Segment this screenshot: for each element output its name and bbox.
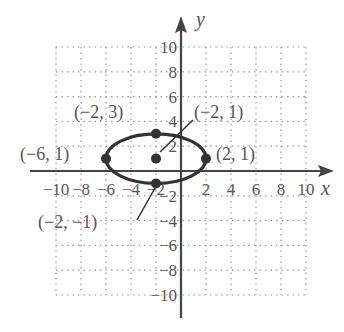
x-tick-label: 6 (252, 180, 261, 199)
y-tick-label: −4 (159, 212, 178, 231)
x-axis-label: x (320, 177, 330, 199)
y-tick-label: −10 (150, 286, 177, 305)
data-point (151, 154, 161, 164)
data-point (101, 154, 111, 164)
x-tick-label: 4 (227, 180, 236, 199)
y-tick-label: 6 (169, 88, 178, 107)
point-label-right: (2, 1) (216, 144, 255, 165)
y-tick-label: −8 (159, 261, 177, 280)
point-label-center: (−2, 1) (194, 102, 243, 123)
y-tick-label: −2 (159, 187, 177, 206)
point-label-bottom: (−2, −1) (38, 212, 97, 233)
data-point (151, 129, 161, 139)
ellipse-graph: x y −10−8−6−4−2246810108642−2−4−6−8−10 (… (0, 0, 344, 332)
axes: x y (30, 8, 334, 318)
points (101, 129, 211, 189)
y-axis-label: y (194, 8, 205, 31)
x-tick-label: 2 (202, 180, 211, 199)
x-tick-label: 8 (277, 180, 286, 199)
x-tick-label: −6 (97, 180, 115, 199)
x-tick-label: −8 (72, 180, 90, 199)
y-tick-label: 4 (169, 112, 178, 131)
y-tick-label: −6 (159, 236, 177, 255)
data-point (201, 154, 211, 164)
point-label-left: (−6, 1) (20, 144, 69, 165)
x-tick-label: −10 (43, 180, 70, 199)
point-labels: (−2, 3) (−2, 1) (−6, 1) (2, 1) (−2, −1) (20, 102, 255, 233)
point-label-top: (−2, 3) (74, 102, 123, 123)
data-point (151, 178, 161, 188)
y-tick-label: 10 (160, 38, 177, 57)
y-tick-label: 8 (169, 63, 178, 82)
x-tick-label: 10 (298, 180, 315, 199)
